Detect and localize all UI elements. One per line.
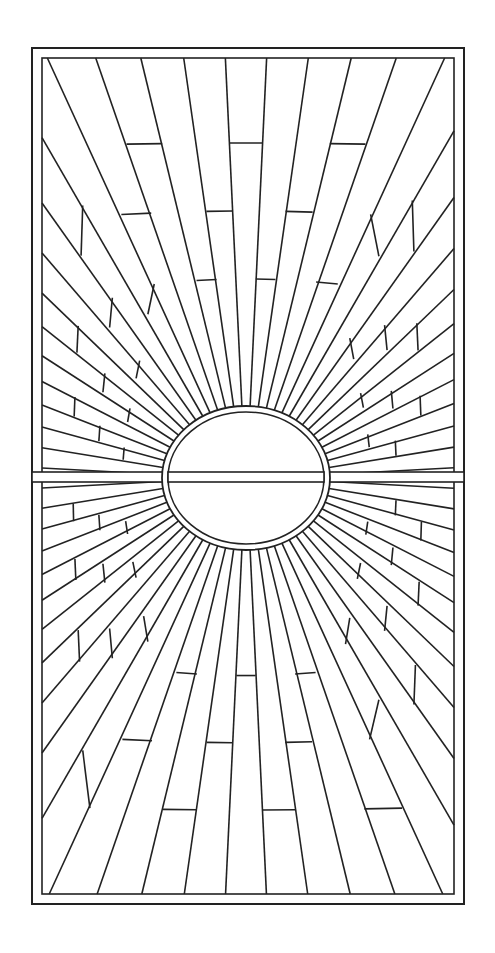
sun-disc bbox=[162, 406, 330, 550]
stained-glass-artwork bbox=[0, 0, 495, 953]
